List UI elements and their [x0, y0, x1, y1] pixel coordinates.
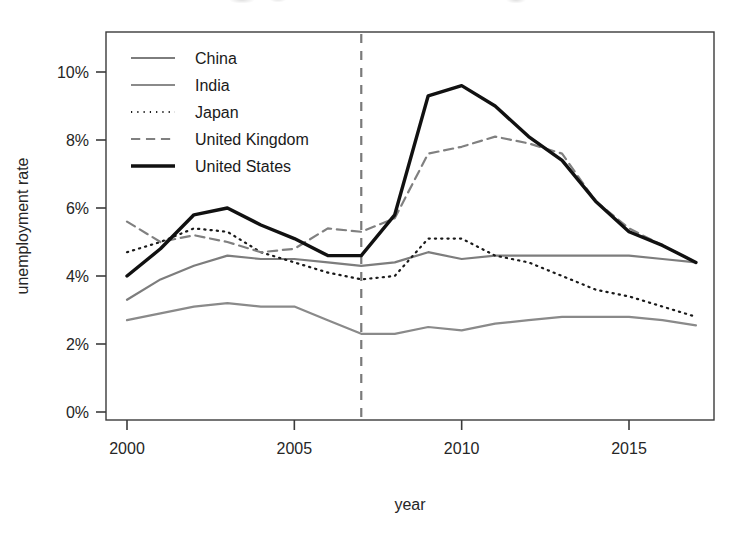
x-tick-label: 2015	[611, 440, 647, 457]
y-tick-label: 0%	[66, 404, 89, 421]
legend-label-united-states: United States	[195, 158, 291, 175]
legend-label-china: China	[195, 50, 237, 67]
legend-label-india: India	[195, 77, 230, 94]
x-tick-label: 2010	[444, 440, 480, 457]
y-tick-label: 2%	[66, 336, 89, 353]
y-axis: 0%2%4%6%8%10%	[57, 64, 106, 421]
y-tick-label: 10%	[57, 64, 89, 81]
y-tick-label: 6%	[66, 200, 89, 217]
legend-label-japan: Japan	[195, 104, 239, 121]
x-axis: 2000200520102015	[109, 420, 647, 457]
chart-container: 0%2%4%6%8%10% 2000200520102015 ChinaIndi…	[0, 0, 733, 545]
y-tick-label: 4%	[66, 268, 89, 285]
series-line-japan	[127, 228, 696, 316]
x-tick-label: 2005	[277, 440, 313, 457]
series-line-india	[127, 303, 696, 334]
x-tick-label: 2000	[109, 440, 145, 457]
legend-label-united-kingdom: United Kingdom	[195, 131, 309, 148]
series-layer	[127, 86, 696, 334]
series-line-china	[127, 252, 696, 300]
y-tick-label: 8%	[66, 132, 89, 149]
unemployment-rate-line-chart: 0%2%4%6%8%10% 2000200520102015 ChinaIndi…	[0, 0, 733, 545]
y-axis-title: unemployment rate	[14, 157, 31, 294]
x-axis-title: year	[394, 496, 426, 513]
legend-layer: ChinaIndiaJapanUnited KingdomUnited Stat…	[131, 50, 309, 175]
